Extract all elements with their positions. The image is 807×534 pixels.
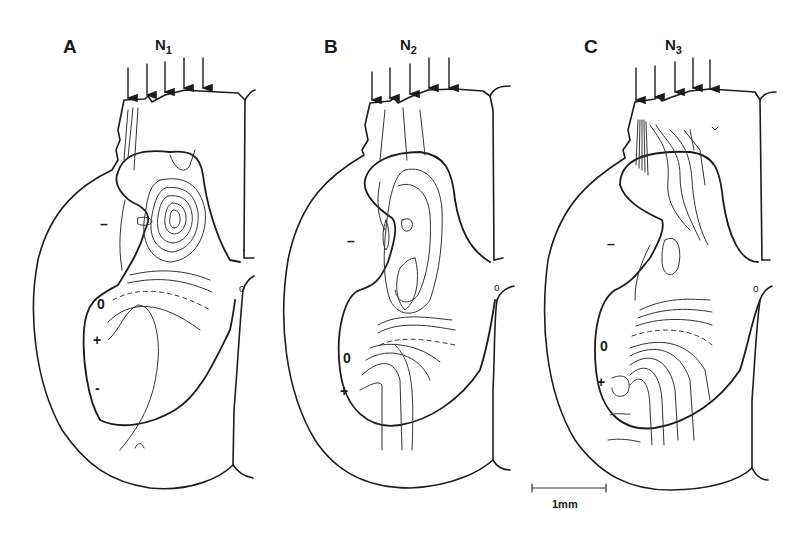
scale-bar-label: 1mm (552, 498, 578, 510)
panel-letter-c: C (584, 36, 598, 58)
sign-negative-upper-a: – (100, 216, 108, 232)
stimulus-name: N (665, 36, 676, 53)
cord-outline-a (33, 90, 245, 489)
sign-zero-a: 0 (97, 296, 105, 312)
sign-zero-b: 0 (343, 350, 351, 366)
sign-negative-upper-b: – (347, 233, 355, 249)
panel-b-drawing (284, 58, 514, 488)
cord-outline-c (545, 89, 762, 490)
stimulus-name: N (400, 36, 411, 53)
stimulus-label-b: N2 (400, 36, 417, 56)
stimulus-index: 3 (676, 44, 682, 56)
stimulus-arrows-c (636, 58, 710, 100)
stimulus-label-c: N3 (665, 36, 682, 56)
sign-positive-b: + (340, 383, 348, 399)
sign-negative-lower-a: - (95, 380, 100, 396)
grey-matter-a (84, 151, 240, 425)
sign-negative-upper-c: – (607, 236, 615, 252)
midline-mark-c: o (753, 283, 759, 294)
grey-matter-c (595, 152, 760, 429)
sign-positive-a: + (93, 332, 101, 348)
stimulus-name: N (155, 36, 166, 53)
sign-positive-c: + (597, 374, 605, 390)
panel-c-drawing (545, 58, 776, 490)
stimulus-arrows-a (128, 58, 203, 98)
panel-letter-a: A (63, 36, 77, 58)
panel-letter-b: B (324, 36, 338, 58)
panel-a-drawing (33, 58, 255, 489)
midline-mark-b: o (494, 282, 500, 293)
stimulus-arrows-b (372, 58, 449, 100)
figure-drawing (0, 0, 807, 534)
sign-zero-c: 0 (600, 338, 608, 354)
contour-figure: A N1 – 0 + - o B N2 – 0 + o C N3 – 0 + o… (0, 0, 807, 534)
stimulus-index: 1 (166, 44, 172, 56)
stimulus-label-a: N1 (155, 36, 172, 56)
cord-outline-b (284, 89, 497, 488)
midline-mark-a: o (239, 283, 245, 294)
stimulus-index: 2 (411, 44, 417, 56)
scale-bar (532, 484, 606, 492)
